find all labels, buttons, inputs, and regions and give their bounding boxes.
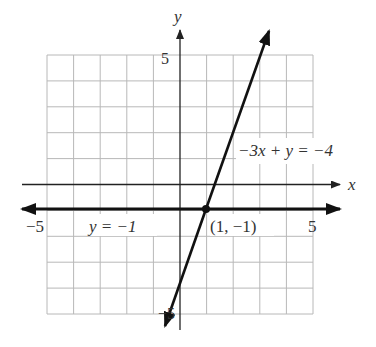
intersection-label: (1, −1) <box>210 217 256 236</box>
tick-label-x-max: 5 <box>308 217 317 236</box>
equation-label-slanted: −3x + y = −4 <box>238 141 333 160</box>
coordinate-graph: y x 5 −5 −5 5 y = −1 (1, −1) −3x + y = −… <box>0 0 376 347</box>
y-axis-label: y <box>172 7 182 26</box>
tick-label-x-min: −5 <box>26 217 44 236</box>
tick-label-y-max: 5 <box>161 50 169 67</box>
intersection-point <box>202 205 210 213</box>
tick-label-y-min: −5 <box>158 305 175 322</box>
equation-label-horizontal: y = −1 <box>87 217 137 236</box>
x-axis-label: x <box>347 175 356 194</box>
